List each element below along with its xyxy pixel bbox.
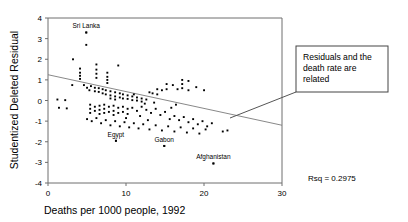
rsq-label: Rsq = 0.2975 [308,174,356,183]
data-point [188,121,190,123]
data-point [127,113,129,115]
data-point [117,107,119,109]
data-point [91,120,93,122]
data-point [98,91,100,93]
regression-line [48,75,282,126]
y-tick-label: 3 [38,35,43,44]
y-tick-label: 1 [38,76,43,85]
data-point [95,77,97,79]
data-point [94,90,96,92]
data-point [86,118,88,120]
y-axis-ticks: 43210-1-2-3-4 [35,14,48,188]
data-point [169,118,171,120]
data-point [144,103,146,105]
data-point [124,121,126,123]
labeled-point-marker-egypt [115,140,117,142]
data-point [110,94,112,96]
callout-annotation: Residuals and the death rate are related [230,46,388,118]
callout-line-1: Residuals and the [303,52,372,62]
data-point [99,113,101,115]
data-point [108,111,110,113]
data-point [150,112,152,114]
data-point [227,130,229,132]
data-point [181,79,183,81]
plot-axes [48,18,282,183]
data-point [181,87,183,89]
data-point [141,101,143,103]
data-point [222,131,224,133]
y-axis-title: Studentized Deleted Residual [8,31,20,169]
data-point [152,92,154,94]
data-point [122,106,124,108]
x-tick-label: 30 [278,189,287,198]
data-point [94,110,96,112]
data-point [136,97,138,99]
data-point [186,132,188,134]
data-point [161,89,163,91]
data-point [192,127,194,129]
data-point [106,72,108,74]
data-point [164,111,166,113]
data-point [79,68,81,70]
data-point [136,110,138,112]
data-point [177,88,179,90]
data-points [56,32,228,165]
data-point [139,115,141,117]
data-point [95,69,97,71]
callout-line-3: related [303,74,329,84]
data-point [155,108,157,110]
data-point [119,97,121,99]
callout-leader-line [230,92,296,118]
data-point [195,86,197,88]
data-point [166,83,168,85]
data-point [161,130,163,132]
data-point [102,92,104,94]
data-point [110,98,112,100]
data-point [192,118,194,120]
data-point [103,104,105,106]
data-point [114,91,116,93]
data-point [88,89,90,91]
y-tick-label: 4 [38,14,43,23]
data-point [183,116,185,118]
point-label-afghanistan: Afghanistan [196,153,231,161]
data-point [99,109,101,111]
data-point [178,119,180,121]
data-point [173,131,175,133]
data-point [64,99,66,101]
y-tick-label: -3 [35,158,43,167]
data-point [105,93,107,95]
chart-svg: 43210-1-2-3-4 0102030 Sri LankaEgyptGabo… [0,0,408,222]
y-tick-label: 0 [38,97,43,106]
data-point [58,107,60,109]
data-point [105,89,107,91]
data-point [90,85,92,87]
data-point [133,122,135,124]
data-point [147,119,149,121]
data-point [119,125,121,127]
data-point [141,106,143,108]
data-point [106,76,108,78]
data-point [79,75,81,77]
data-point [95,64,97,66]
data-point [170,107,172,109]
data-point [141,98,143,100]
data-point [106,79,108,81]
data-point [56,99,58,101]
data-point [145,109,147,111]
data-point [71,84,73,86]
data-point [106,82,108,84]
x-axis-title: Deaths per 1000 people, 1992 [44,204,185,216]
data-point [127,98,129,100]
data-point [131,107,133,109]
data-point [89,104,91,106]
data-point [136,100,138,102]
data-point [79,72,81,74]
data-point [100,122,102,124]
data-point [85,44,87,46]
labeled-point-marker-afghanistan [212,163,214,165]
data-point [205,128,207,130]
data-point [86,87,88,89]
data-point [98,87,100,89]
y-tick-label: 2 [38,55,43,64]
